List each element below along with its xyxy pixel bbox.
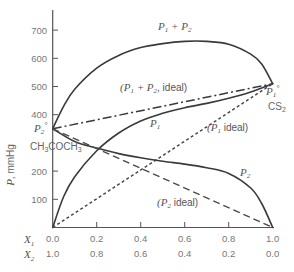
y-tick-label: 400 (31, 109, 47, 120)
y-tick-label: 200 (31, 166, 47, 177)
x1-tick-label: 0.0 (46, 233, 59, 244)
label-p2-pure: P2° (33, 121, 48, 136)
x2-tick-label: 1.0 (46, 248, 59, 259)
x1-tick-label: 0.4 (134, 233, 147, 244)
y-axis-label: P, mmHg (4, 144, 16, 187)
y-tick-label: 100 (31, 194, 47, 205)
series-p2-ideal (53, 129, 273, 228)
label-acetone: CH3COCH3 (30, 141, 82, 153)
x2-axis-label: X2 (23, 248, 35, 263)
y-tick-label: 500 (31, 81, 47, 92)
x1-tick-label: 1.0 (266, 233, 279, 244)
vapor-pressure-chart: 100200400500600700 0.01.00.20.80.40.60.6… (0, 0, 294, 272)
label-p1-ideal: (P1 ideal) (207, 121, 248, 135)
label-p1-pure: P1° (265, 84, 280, 99)
x1-tick-label: 0.2 (90, 233, 103, 244)
x2-tick-label: 0.0 (266, 248, 279, 259)
label-p2-ideal: (P2 ideal) (157, 196, 198, 210)
label-p1: P1 (149, 117, 160, 131)
label-sum: P1 + P2 (157, 20, 192, 34)
label-cs2: CS2 (268, 101, 286, 113)
x2-tick-label: 0.8 (90, 248, 103, 259)
y-tick-label: 600 (31, 53, 47, 64)
x1-axis-label: X1 (23, 233, 34, 248)
label-sum-ideal: (P1 + P2, ideal) (120, 81, 187, 95)
x2-tick-label: 0.4 (178, 248, 191, 259)
x2-tick-label: 0.6 (134, 248, 147, 259)
x2-tick-label: 0.2 (222, 248, 235, 259)
y-axis-ticks: 100200400500600700 (31, 25, 58, 205)
y-tick-label: 700 (31, 25, 47, 36)
x1-tick-label: 0.8 (222, 233, 235, 244)
x1-tick-label: 0.6 (178, 233, 191, 244)
label-p2: P2 (239, 166, 251, 180)
